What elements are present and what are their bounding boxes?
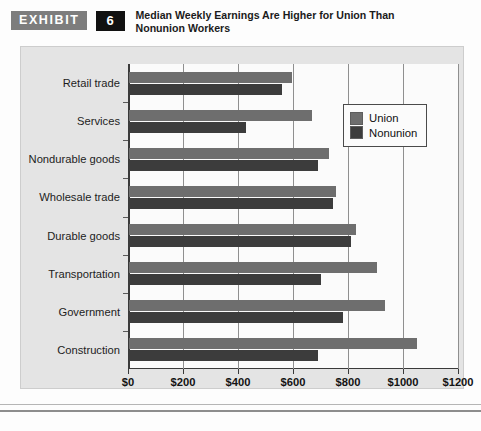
bar-nonunion xyxy=(129,350,318,361)
exhibit-badge: EXHIBIT xyxy=(11,11,87,30)
chart-panel: $0$200$400$600$800$1000$1200Retail trade… xyxy=(20,46,464,389)
exhibit-header: EXHIBIT 6 Median Weekly Earnings Are Hig… xyxy=(0,6,481,42)
y-axis-tick xyxy=(123,331,128,332)
y-axis-tick xyxy=(123,293,128,294)
bar-union xyxy=(129,110,312,121)
x-axis-tick-label: $1200 xyxy=(442,376,473,388)
gridline xyxy=(458,64,459,369)
bar-nonunion xyxy=(129,274,321,285)
legend-label-union: Union xyxy=(369,112,399,124)
nonunion-swatch-icon xyxy=(350,126,363,139)
x-axis-tick-label: $200 xyxy=(171,376,196,388)
x-axis-tick xyxy=(183,369,184,374)
x-axis-tick-label: $0 xyxy=(122,376,134,388)
x-axis-tick-label: $600 xyxy=(281,376,306,388)
category-label: Transportation xyxy=(48,268,120,280)
x-axis-tick xyxy=(293,369,294,374)
bar-union xyxy=(129,338,417,349)
legend-label-nonunion: Nonunion xyxy=(369,127,417,139)
x-axis-tick-label: $400 xyxy=(226,376,251,388)
exhibit-number-badge: 6 xyxy=(96,11,125,31)
bar-nonunion xyxy=(129,236,351,247)
exhibit-page: EXHIBIT 6 Median Weekly Earnings Are Hig… xyxy=(0,0,481,431)
legend-item-union: Union xyxy=(350,112,417,125)
chart-legend: Union Nonunion xyxy=(343,104,427,147)
x-axis-tick xyxy=(403,369,404,374)
y-axis-tick xyxy=(123,217,128,218)
y-axis-tick xyxy=(123,102,128,103)
bar-union xyxy=(129,262,377,273)
x-axis-tick xyxy=(238,369,239,374)
bar-union xyxy=(129,224,356,235)
bar-nonunion xyxy=(129,122,246,133)
footer-rule-top xyxy=(0,404,481,405)
category-label: Retail trade xyxy=(63,77,120,89)
x-axis-tick-label: $1000 xyxy=(387,376,418,388)
category-label: Government xyxy=(58,306,120,318)
x-axis-tick xyxy=(348,369,349,374)
union-swatch-icon xyxy=(350,112,363,125)
x-axis-tick-label: $800 xyxy=(336,376,361,388)
category-label: Wholesale trade xyxy=(39,191,120,203)
x-axis-tick xyxy=(128,369,129,374)
bar-nonunion xyxy=(129,84,282,95)
bar-union xyxy=(129,72,292,83)
y-axis-tick xyxy=(123,140,128,141)
category-label: Nondurable goods xyxy=(29,153,120,165)
category-label: Construction xyxy=(57,344,120,356)
category-label: Services xyxy=(77,115,120,127)
bar-union xyxy=(129,148,329,159)
category-label: Durable goods xyxy=(47,230,120,242)
bar-nonunion xyxy=(129,160,318,171)
bar-union xyxy=(129,300,385,311)
bar-union xyxy=(129,186,336,197)
plot-area: $0$200$400$600$800$1000$1200Retail trade… xyxy=(128,64,458,369)
bar-nonunion xyxy=(129,312,343,323)
footer-rule-bottom xyxy=(0,410,481,412)
x-axis-tick xyxy=(458,369,459,374)
y-axis-tick xyxy=(123,178,128,179)
bar-nonunion xyxy=(129,198,333,209)
exhibit-title: Median Weekly Earnings Are Higher for Un… xyxy=(136,9,446,34)
y-axis-tick xyxy=(123,255,128,256)
legend-item-nonunion: Nonunion xyxy=(350,126,417,139)
